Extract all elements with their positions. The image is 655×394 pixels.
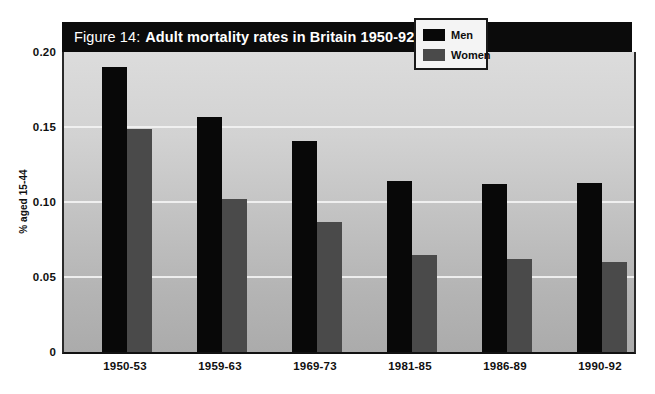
y-axis-tick-label: 0.10: [4, 196, 56, 208]
legend-item-women: Women: [423, 46, 486, 64]
bar-women-1969-73: [317, 222, 342, 353]
y-axis-tick-label: 0.05: [4, 271, 56, 283]
legend-swatch-men: [423, 29, 445, 41]
y-axis: % aged 15-44 0.200.150.100.050: [0, 0, 56, 394]
y-axis-tick-label: 0.20: [4, 46, 56, 58]
x-axis-tick-label: 1981-85: [363, 360, 458, 372]
bar-men-1959-63: [197, 117, 222, 353]
bar-women-1981-85: [412, 255, 437, 353]
legend-swatch-women: [423, 49, 445, 61]
bar-men-1981-85: [387, 181, 412, 352]
bar-women-1950-53: [127, 129, 152, 353]
x-axis-tick-label: 1969-73: [268, 360, 363, 372]
legend-item-men: Men: [423, 26, 486, 44]
figure-container: Figure 14: Adult mortality rates in Brit…: [0, 0, 655, 394]
legend-label-women: Women: [451, 49, 491, 61]
bar-men-1986-89: [482, 184, 507, 352]
x-axis-tick-label: 1986-89: [458, 360, 553, 372]
plot-area: [62, 52, 636, 354]
figure-title-bar: Figure 14: Adult mortality rates in Brit…: [62, 22, 632, 52]
bar-men-1969-73: [292, 141, 317, 353]
x-axis-tick-label: 1950-53: [78, 360, 173, 372]
y-axis-tick-label: 0: [4, 346, 56, 358]
figure-number-label: Figure 14:: [74, 29, 140, 45]
chart-legend: MenWomen: [414, 18, 488, 70]
bar-women-1986-89: [507, 259, 532, 352]
legend-label-men: Men: [451, 29, 473, 41]
bar-men-1950-53: [102, 67, 127, 352]
bar-women-1959-63: [222, 199, 247, 352]
y-axis-tick-label: 0.15: [4, 121, 56, 133]
bar-men-1990-92: [577, 183, 602, 353]
bar-women-1990-92: [602, 262, 627, 352]
x-axis-tick-label: 1959-63: [173, 360, 268, 372]
x-axis-tick-label: 1990-92: [553, 360, 648, 372]
plot-inner: [64, 52, 634, 352]
